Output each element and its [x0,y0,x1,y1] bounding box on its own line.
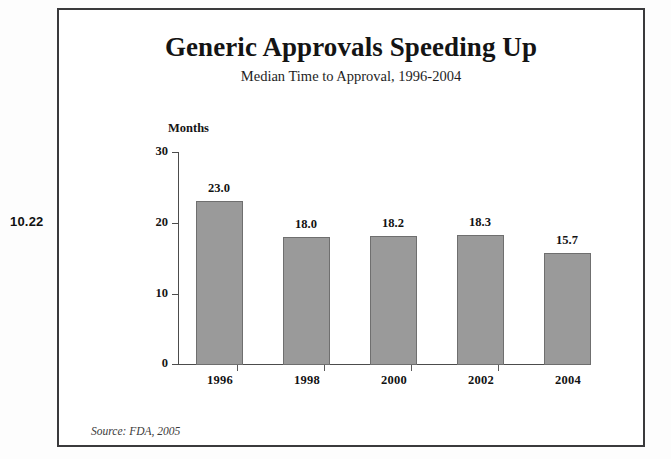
x-axis-label-2000: 2000 [358,373,430,388]
bar-value-2004: 15.7 [537,233,597,248]
y-tick-mark-0 [172,364,179,365]
bar-2004[interactable] [544,253,591,365]
x-axis-label-1998: 1998 [271,373,343,388]
page-margin-note: 10.22 [10,214,44,229]
x-tick-mark-2 [324,365,325,371]
y-tick-label-10: 10 [134,286,168,301]
bar-2002[interactable] [457,235,504,365]
bar-value-2002: 18.3 [450,215,510,230]
y-tick-label-0: 0 [134,356,168,371]
x-tick-mark-3 [411,365,412,371]
bar-value-1998: 18.0 [276,217,336,232]
x-tick-mark-1 [237,365,238,371]
y-tick-label-20: 20 [134,215,168,230]
y-tick-mark-30 [172,152,179,153]
source-note: Source: FDA, 2005 [91,425,180,437]
bar-1998[interactable] [283,237,330,365]
scanned-page: 10.22 Generic Approvals Speeding Up Medi… [0,0,671,459]
y-tick-mark-10 [172,294,179,295]
bar-2000[interactable] [370,236,417,365]
plot-area: Months 30 20 10 0 23.0 1996 18. [59,10,643,445]
y-tick-label-30: 30 [134,144,168,159]
x-axis-label-1996: 1996 [184,373,256,388]
bar-value-2000: 18.2 [363,216,423,231]
y-tick-mark-20 [172,223,179,224]
figure-frame: Generic Approvals Speeding Up Median Tim… [57,8,645,447]
bar-1996[interactable] [196,201,243,365]
y-axis-line [178,152,179,365]
x-axis-label-2002: 2002 [445,373,517,388]
x-axis-label-2004: 2004 [532,373,604,388]
bar-value-1996: 23.0 [189,181,249,196]
x-tick-mark-4 [498,365,499,371]
y-axis-title: Months [168,121,209,136]
